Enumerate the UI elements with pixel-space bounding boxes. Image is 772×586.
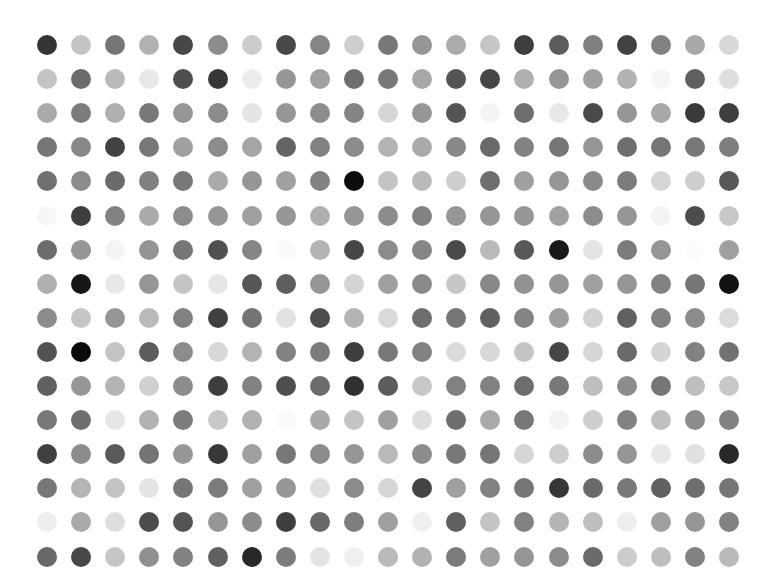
dot-marker [276, 410, 296, 430]
dot-marker [549, 69, 569, 89]
dot-marker [71, 512, 91, 532]
dot-marker [583, 171, 603, 191]
dot-marker [583, 478, 603, 498]
dot-marker [242, 171, 262, 191]
dot-marker [446, 240, 466, 260]
dot-marker [344, 69, 364, 89]
dot-marker [583, 444, 603, 464]
dot-marker [514, 171, 534, 191]
dot-marker [480, 444, 500, 464]
dot-marker [139, 137, 159, 157]
dot-marker [480, 376, 500, 396]
dot-marker [549, 35, 569, 55]
dot-marker [651, 444, 671, 464]
dot-marker [651, 206, 671, 226]
dot-marker [139, 444, 159, 464]
dot-marker [242, 478, 262, 498]
dot-marker [719, 444, 739, 464]
dot-marker [139, 342, 159, 362]
dot-marker [242, 35, 262, 55]
dot-marker [105, 171, 125, 191]
dot-marker [37, 35, 57, 55]
dot-marker [514, 206, 534, 226]
dot-marker [37, 308, 57, 328]
dot-marker [344, 478, 364, 498]
dot-marker [583, 274, 603, 294]
dot-marker [310, 512, 330, 532]
dot-marker [514, 512, 534, 532]
dot-marker [208, 69, 228, 89]
dot-marker [276, 376, 296, 396]
dot-marker [37, 444, 57, 464]
dot-marker [412, 444, 432, 464]
dot-marker [480, 512, 500, 532]
dot-marker [105, 274, 125, 294]
dot-marker [549, 274, 569, 294]
dot-marker [480, 171, 500, 191]
dot-marker [651, 240, 671, 260]
dot-marker [208, 308, 228, 328]
dot-marker [344, 342, 364, 362]
dot-marker [105, 308, 125, 328]
dot-marker [651, 478, 671, 498]
dot-marker [549, 478, 569, 498]
dot-marker [514, 376, 534, 396]
dot-marker [685, 478, 705, 498]
dot-marker [412, 206, 432, 226]
dot-marker [549, 240, 569, 260]
dot-marker [105, 547, 125, 567]
dot-marker [617, 478, 637, 498]
dot-marker [310, 376, 330, 396]
dot-marker [344, 376, 364, 396]
dot-marker [378, 206, 398, 226]
dot-marker [344, 206, 364, 226]
dot-marker [310, 444, 330, 464]
dot-marker [549, 444, 569, 464]
dot-marker [105, 342, 125, 362]
dot-marker [310, 410, 330, 430]
dot-marker [139, 410, 159, 430]
dot-marker [583, 342, 603, 362]
dot-marker [105, 137, 125, 157]
dot-marker [446, 137, 466, 157]
dot-marker [412, 410, 432, 430]
dot-marker [446, 478, 466, 498]
dot-marker [37, 376, 57, 396]
dot-marker [480, 478, 500, 498]
dot-marker [719, 206, 739, 226]
dot-marker [480, 240, 500, 260]
dot-marker [242, 444, 262, 464]
dot-marker [310, 137, 330, 157]
dot-marker [549, 342, 569, 362]
dot-marker [412, 512, 432, 532]
dot-marker [139, 206, 159, 226]
dot-marker [378, 308, 398, 328]
dot-marker [139, 103, 159, 123]
dot-marker [173, 69, 193, 89]
dot-marker [378, 478, 398, 498]
dot-marker [276, 103, 296, 123]
dot-marker [446, 444, 466, 464]
dot-marker [378, 274, 398, 294]
dot-marker [685, 512, 705, 532]
dot-marker [480, 308, 500, 328]
dot-marker [71, 103, 91, 123]
dot-marker [514, 137, 534, 157]
dot-marker [173, 35, 193, 55]
dot-marker [276, 342, 296, 362]
dot-marker [344, 274, 364, 294]
dot-marker [719, 308, 739, 328]
dot-marker [310, 103, 330, 123]
dot-marker [310, 308, 330, 328]
dot-marker [344, 171, 364, 191]
dot-marker [139, 547, 159, 567]
dot-marker [412, 478, 432, 498]
dot-marker [412, 103, 432, 123]
dot-marker [617, 274, 637, 294]
dot-marker [583, 512, 603, 532]
dot-marker [37, 137, 57, 157]
dot-marker [514, 35, 534, 55]
dot-marker [276, 206, 296, 226]
dot-marker [378, 376, 398, 396]
dot-marker [685, 547, 705, 567]
